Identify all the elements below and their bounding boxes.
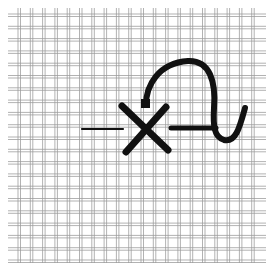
canvas-mesh-illustration <box>0 0 273 270</box>
needle-entry <box>141 99 150 108</box>
cross-stitch-diagram <box>0 0 273 270</box>
